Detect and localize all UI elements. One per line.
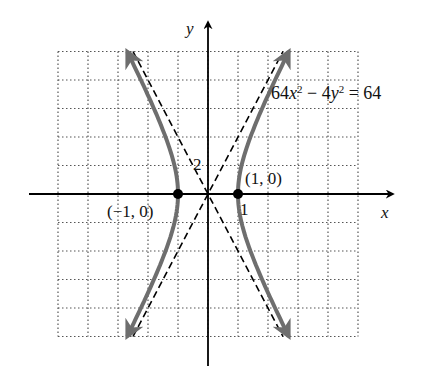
- point-label-right: (1, 0): [245, 170, 282, 187]
- y-tick-label: 2: [193, 156, 202, 173]
- point-label-left: (−1, 0): [107, 203, 153, 220]
- vertex-point: [173, 189, 183, 199]
- x-axis-label: x: [381, 204, 389, 221]
- plot-area: [0, 0, 443, 378]
- vertex-point: [233, 189, 243, 199]
- hyperbola-graph: y x 64x2 − 4y2 = 64 (1, 0) (−1, 0) 1 2: [0, 0, 443, 378]
- x-tick-label: 1: [240, 201, 249, 218]
- equation-label: 64x2 − 4y2 = 64: [271, 84, 381, 102]
- y-axis-label: y: [186, 20, 194, 37]
